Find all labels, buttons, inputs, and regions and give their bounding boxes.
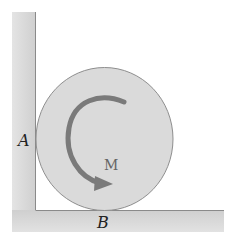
disk [36,68,173,211]
floor [12,210,224,232]
vertical-wall [12,12,36,232]
label-moment: M [104,157,118,173]
disk-corner-diagram: A B M [0,0,225,234]
label-b: B [96,213,109,232]
label-a: A [16,131,30,150]
